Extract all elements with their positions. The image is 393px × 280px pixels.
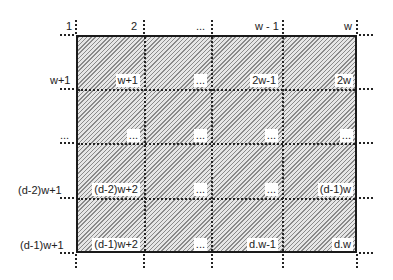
tick: [75, 254, 77, 268]
row-divider: [78, 198, 355, 200]
row-divider: [78, 143, 355, 145]
tick: [143, 254, 145, 268]
cell-label: (d-1)w+2: [92, 238, 140, 251]
cell-label: d.w-1: [247, 238, 278, 251]
cell-label: ...: [127, 129, 140, 142]
tick: [60, 142, 74, 144]
tile-grid: w+1 ... 2w-1 2w ... ... ... ... (d-2)w+2…: [76, 35, 357, 253]
tick: [75, 20, 77, 34]
tick: [359, 34, 373, 36]
tick: [359, 252, 373, 254]
tick: [60, 252, 74, 254]
tick: [359, 142, 373, 144]
row-divider: [78, 89, 355, 91]
row-label-(d-2)w+1: (d-2)w+1: [18, 184, 62, 197]
col-label-w-1: w - 1: [255, 20, 279, 33]
col-label-ellipsis: ...: [196, 20, 205, 33]
row-label-ellipsis: ...: [60, 129, 69, 142]
tick: [60, 88, 74, 90]
cell-label: ...: [194, 74, 207, 87]
tick: [282, 254, 284, 268]
tick: [359, 88, 373, 90]
col-label-w: w: [344, 20, 352, 33]
tick: [143, 20, 145, 34]
col-label-2: 2: [131, 20, 137, 33]
tick: [211, 20, 213, 34]
cell-label: ...: [265, 183, 278, 196]
tick: [60, 34, 74, 36]
tick: [60, 197, 74, 199]
tick: [356, 254, 358, 268]
tick: [356, 20, 358, 34]
cell-label: ...: [194, 129, 207, 142]
cell-label: ...: [265, 129, 278, 142]
cell-label: 2w: [335, 74, 353, 87]
col-label-1: 1: [66, 20, 72, 33]
cell-label: w+1: [116, 74, 141, 87]
cell-label: (d-1)w: [318, 183, 353, 196]
cell-label: ...: [194, 238, 207, 251]
row-label-w+1: w+1: [50, 74, 71, 87]
cell-label: 2w-1: [250, 74, 278, 87]
tick: [211, 254, 213, 268]
tick: [359, 197, 373, 199]
row-label-(d-1)w+1: (d-1)w+1: [20, 239, 64, 252]
cell-label: d.w: [332, 238, 353, 251]
cell-label: ...: [340, 129, 353, 142]
cell-label: ...: [194, 183, 207, 196]
cell-label: (d-2)w+2: [92, 183, 140, 196]
tick: [282, 20, 284, 34]
